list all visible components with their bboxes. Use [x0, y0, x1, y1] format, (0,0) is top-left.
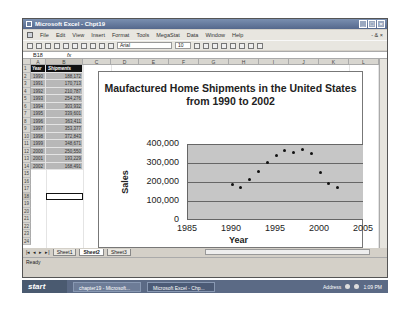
shipments-cell[interactable]: 348,671	[46, 140, 83, 148]
data-point[interactable]	[239, 186, 242, 189]
menu-insert[interactable]: Insert	[91, 32, 105, 38]
menu-file[interactable]: File	[40, 32, 49, 38]
close-button[interactable]: ×	[377, 20, 385, 28]
row-header[interactable]: 18	[23, 193, 31, 201]
row-header[interactable]: 10	[23, 133, 31, 141]
row-header[interactable]: 16	[23, 178, 31, 186]
data-point[interactable]	[231, 183, 234, 186]
selected-cell-b18[interactable]	[46, 193, 83, 201]
minimize-button[interactable]: _	[359, 20, 367, 28]
hyperlink-icon[interactable]	[212, 43, 218, 49]
year-cell[interactable]: 1991	[31, 80, 46, 88]
plot-area[interactable]	[187, 144, 363, 220]
data-point[interactable]	[327, 182, 330, 185]
column-header-j[interactable]: J	[289, 59, 319, 65]
row-header[interactable]: 6	[23, 103, 31, 111]
menu-edit[interactable]: Edit	[56, 32, 65, 38]
tab-nav-prev-icon[interactable]: ◂	[33, 249, 36, 255]
row-header[interactable]: 15	[23, 170, 31, 178]
menu-window[interactable]: Window	[205, 32, 225, 38]
font-name-select[interactable]: Arial	[117, 42, 172, 49]
shipments-cell[interactable]: 193,229	[46, 155, 83, 163]
shipments-cell[interactable]: 254,276	[46, 95, 83, 103]
font-size-select[interactable]: 10	[175, 42, 191, 49]
row-header[interactable]: 11	[23, 140, 31, 148]
cut-icon[interactable]	[81, 43, 87, 49]
data-point[interactable]	[248, 178, 251, 181]
tab-sheet3[interactable]: Sheet3	[107, 249, 131, 256]
address-label[interactable]: Address	[323, 284, 341, 290]
column-header-l[interactable]: L	[349, 59, 379, 65]
menu-tools[interactable]: Tools	[136, 32, 149, 38]
copy-icon[interactable]	[90, 43, 96, 49]
year-cell[interactable]: 1994	[31, 103, 46, 111]
year-cell[interactable]: 1997	[31, 125, 46, 133]
column-header-c[interactable]: C	[83, 59, 111, 65]
row-header[interactable]: 2	[23, 73, 31, 81]
year-cell[interactable]: 1993	[31, 95, 46, 103]
drawing-icon[interactable]	[248, 43, 254, 49]
row-header[interactable]: 22	[23, 223, 31, 231]
workbook-controls[interactable]: - & ×	[371, 32, 383, 38]
network-icon[interactable]	[345, 284, 350, 289]
redo-icon[interactable]	[203, 43, 209, 49]
column-header-e[interactable]: E	[139, 59, 169, 65]
paste-icon[interactable]	[99, 43, 105, 49]
year-cell[interactable]: 1995	[31, 110, 46, 118]
menu-megastat[interactable]: MegaStat	[156, 32, 180, 38]
data-point[interactable]	[275, 154, 278, 157]
open-icon[interactable]	[36, 43, 42, 49]
row-header[interactable]: 23	[23, 230, 31, 238]
name-box[interactable]: B18	[23, 52, 53, 58]
shipments-cell[interactable]: 363,411	[46, 118, 83, 126]
year-cell[interactable]: 2001	[31, 155, 46, 163]
autosum-icon[interactable]	[221, 43, 227, 49]
menu-format[interactable]: Format	[112, 32, 129, 38]
print-icon[interactable]	[72, 43, 78, 49]
column-header-i[interactable]: I	[259, 59, 289, 65]
tab-nav-last-icon[interactable]: ▸|	[45, 249, 49, 255]
save-icon[interactable]	[45, 43, 51, 49]
column-header-g[interactable]: G	[199, 59, 229, 65]
year-cell[interactable]: 1990	[31, 73, 46, 81]
menu-help[interactable]: Help	[232, 32, 243, 38]
column-header-f[interactable]: F	[169, 59, 199, 65]
year-cell[interactable]: 2002	[31, 163, 46, 171]
shipments-cell[interactable]: 372,843	[46, 133, 83, 141]
data-point[interactable]	[292, 151, 295, 154]
row-header[interactable]: 12	[23, 148, 31, 156]
undo-icon[interactable]	[194, 43, 200, 49]
column-header-k[interactable]: K	[319, 59, 349, 65]
tab-nav-first-icon[interactable]: |◂	[26, 249, 30, 255]
shipments-cell[interactable]: 339,601	[46, 110, 83, 118]
row-header[interactable]: 20	[23, 208, 31, 216]
header-cell-year[interactable]: Year	[31, 65, 46, 73]
tab-sheet2[interactable]: Sheet2	[79, 249, 103, 256]
worksheet-grid[interactable]: A B C D E F G H I J K L 1 2 3 4 5 6 7 8 …	[23, 59, 379, 248]
format-painter-icon[interactable]	[108, 43, 114, 49]
new-icon[interactable]	[27, 43, 33, 49]
menu-data[interactable]: Data	[187, 32, 199, 38]
scatter-chart[interactable]: Maufactured Home Shipments in the United…	[98, 71, 363, 248]
row-header[interactable]: 17	[23, 185, 31, 193]
row-header[interactable]: 8	[23, 118, 31, 126]
row-header[interactable]: 1	[23, 65, 31, 73]
data-point[interactable]	[319, 171, 322, 174]
data-point[interactable]	[257, 170, 260, 173]
tab-nav-next-icon[interactable]: ▸	[39, 249, 42, 255]
year-cell[interactable]: 1992	[31, 88, 46, 96]
row-header[interactable]: 3	[23, 80, 31, 88]
data-point[interactable]	[336, 186, 339, 189]
volume-icon[interactable]	[354, 284, 359, 289]
row-header[interactable]: 5	[23, 95, 31, 103]
row-header[interactable]: 7	[23, 110, 31, 118]
start-button[interactable]: start	[22, 280, 67, 293]
taskbar-item-word[interactable]: chapter19 - Microsoft...	[73, 282, 141, 292]
zoom-icon[interactable]	[257, 43, 263, 49]
header-cell-shipments[interactable]: Shipments	[46, 65, 83, 73]
row-header[interactable]: 9	[23, 125, 31, 133]
shipments-cell[interactable]: 170,713	[46, 80, 83, 88]
horizontal-scrollbar[interactable]	[205, 249, 370, 255]
tab-sheet1[interactable]: Sheet1	[53, 249, 77, 256]
taskbar-item-excel[interactable]: Microsoft Excel - Chp...	[147, 282, 215, 292]
